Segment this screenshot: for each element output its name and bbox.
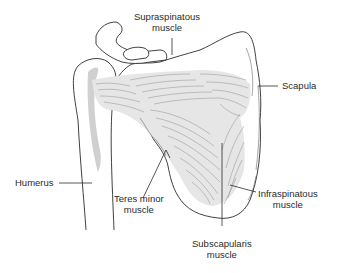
label-subscapularis-line1: Subscapularis — [192, 238, 252, 249]
label-infraspinatous-line1: Infraspinatous — [258, 188, 318, 199]
label-humerus: Humerus — [15, 177, 54, 188]
rotator-cuff-muscles — [92, 70, 251, 206]
label-scapula: Scapula — [282, 80, 316, 91]
label-infraspinatous: Infraspinatous muscle — [258, 188, 318, 210]
label-teres-minor: Teres minor muscle — [114, 193, 164, 215]
label-teres-minor-line2: muscle — [114, 204, 164, 215]
label-teres-minor-line1: Teres minor — [114, 193, 164, 204]
label-scapula-line1: Scapula — [282, 80, 316, 91]
label-supraspinatous-line1: Supraspinatous — [134, 11, 200, 22]
label-infraspinatous-line2: muscle — [258, 199, 318, 210]
label-subscapularis: Subscapularis muscle — [192, 238, 252, 260]
label-supraspinatous-line2: muscle — [134, 22, 200, 33]
label-supraspinatous: Supraspinatous muscle — [134, 11, 200, 33]
label-humerus-line1: Humerus — [15, 177, 54, 188]
shoulder-anatomy-diagram — [0, 0, 337, 273]
label-subscapularis-line2: muscle — [192, 249, 252, 260]
